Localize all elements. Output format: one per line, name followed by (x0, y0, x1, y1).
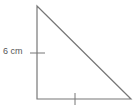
triangle-shape (37, 6, 131, 99)
side-length-label: 6 cm (3, 46, 23, 56)
